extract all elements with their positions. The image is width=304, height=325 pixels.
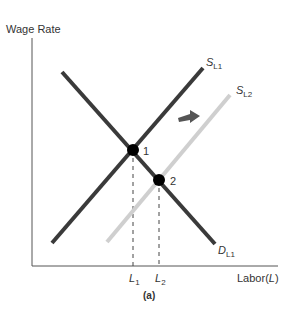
demand-1-label: DL1 (218, 244, 235, 259)
tick-label-l2: L2 (155, 272, 166, 287)
supply-curve-sl2 (107, 95, 230, 242)
y-axis-label: Wage Rate (6, 23, 61, 35)
figure-caption: (a) (143, 290, 155, 301)
right-arrow-icon (178, 110, 200, 123)
equilibrium-point-2 (153, 174, 165, 186)
supply-2-label: SL2 (236, 84, 253, 99)
tick-label-l1: L1 (129, 272, 140, 287)
x-axis-label: Labor(L) (237, 272, 279, 284)
demand-curve-dl1 (62, 72, 215, 244)
equilibrium-point-1 (127, 144, 139, 156)
supply-1-label: SL1 (206, 56, 223, 71)
equilibrium-label-2: 2 (170, 175, 176, 187)
equilibrium-label-1: 1 (143, 145, 149, 157)
labor-market-diagram: Wage Rate 1 2 SL1 SL2 DL1 L1 L2 Labor(L)… (0, 0, 304, 325)
